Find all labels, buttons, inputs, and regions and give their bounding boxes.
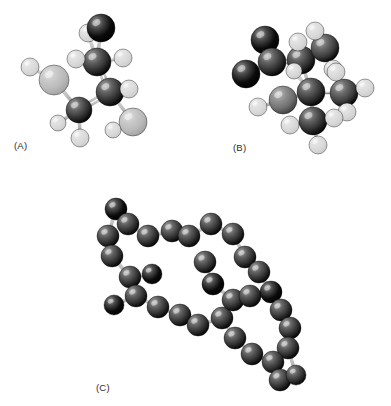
molecule-c-diagram bbox=[0, 0, 391, 406]
panel-c-label: (C) bbox=[96, 382, 110, 393]
figure-root: (A) (B) (C) bbox=[0, 0, 391, 406]
